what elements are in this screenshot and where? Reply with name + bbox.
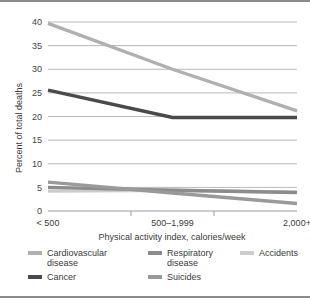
legend-swatch-icon xyxy=(28,275,42,279)
legend-swatch-icon xyxy=(148,275,162,279)
legend-swatch-icon xyxy=(28,251,42,255)
legend-row-2: Cancer Suicides xyxy=(0,272,310,296)
bottom-divider xyxy=(0,296,310,298)
y-tick-label: 5 xyxy=(37,183,42,193)
y-tick-label: 15 xyxy=(32,135,42,145)
series-lines xyxy=(48,23,297,203)
legend-item-label: Cardiovascular disease xyxy=(47,248,107,268)
y-tick-labels: 0510152025303540 xyxy=(32,17,42,216)
legend-item-label: Cancer xyxy=(47,272,76,282)
y-tick-label: 20 xyxy=(32,112,42,122)
x-axis-title: Physical activity index, calories/week xyxy=(98,232,246,242)
chart-legend: Cardiovascular disease Respiratory disea… xyxy=(0,248,310,296)
legend-item-cardiovascular-disease[interactable]: Cardiovascular disease xyxy=(28,248,148,268)
legend-item-label: Suicides xyxy=(167,272,201,282)
legend-item-cancer[interactable]: Cancer xyxy=(28,272,148,282)
plot-area-container: Percent of total deaths 0510152025303540… xyxy=(0,0,310,250)
y-tick-label: 35 xyxy=(32,41,42,51)
legend-row-1: Cardiovascular disease Respiratory disea… xyxy=(0,248,310,272)
x-category-label: 500–1,999 xyxy=(151,218,194,228)
legend-item-accidents[interactable]: Accidents xyxy=(240,248,310,258)
series-line xyxy=(48,90,297,117)
x-category-label: < 500 xyxy=(37,218,60,228)
y-tick-label: 10 xyxy=(32,159,42,169)
x-category-labels: < 500500–1,9992,000+ xyxy=(37,218,310,228)
x-tick-marks xyxy=(131,211,214,216)
y-tick-label: 25 xyxy=(32,88,42,98)
y-tick-label: 30 xyxy=(32,64,42,74)
legend-item-respiratory-disease[interactable]: Respiratory disease xyxy=(148,248,240,268)
line-chart: Percent of total deaths 0510152025303540… xyxy=(0,0,310,250)
legend-item-label: Accidents xyxy=(259,248,298,258)
x-category-label: 2,000+ xyxy=(283,218,310,228)
y-tick-label: 40 xyxy=(32,17,42,27)
chart-figure: Percent of total deaths 0510152025303540… xyxy=(0,0,310,306)
legend-item-label: Respiratory disease xyxy=(167,248,213,268)
y-tick-label: 0 xyxy=(37,206,42,216)
legend-swatch-icon xyxy=(240,251,254,255)
legend-swatch-icon xyxy=(148,251,162,255)
legend-item-suicides[interactable]: Suicides xyxy=(148,272,240,282)
y-axis-title: Percent of total deaths xyxy=(14,82,24,173)
